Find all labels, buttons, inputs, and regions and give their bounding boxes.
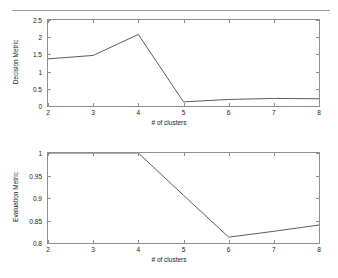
x-axis-tick-label: 3 — [91, 246, 95, 253]
y-axis-title-evaluation-metric: Evaluation Metric — [12, 172, 19, 222]
x-axis-tick — [138, 240, 139, 243]
x-axis-tick-label: 5 — [182, 109, 186, 116]
x-axis-tick-label: 4 — [137, 109, 141, 116]
y-axis-tick — [48, 153, 51, 154]
x-axis-tick — [184, 20, 185, 23]
y-axis-tick — [316, 54, 319, 55]
y-axis-tick — [316, 198, 319, 199]
x-axis-tick-label: 2 — [46, 109, 50, 116]
x-axis-tick — [93, 20, 94, 23]
y-axis-tick — [316, 72, 319, 73]
x-axis-tick — [138, 20, 139, 23]
y-axis-tick — [48, 72, 51, 73]
x-axis-tick — [274, 240, 275, 243]
x-axis-tick — [184, 153, 185, 156]
y-axis-tick — [316, 37, 319, 38]
x-axis-tick — [229, 20, 230, 23]
x-axis-tick-label: 2 — [46, 246, 50, 253]
y-axis-tick — [48, 20, 51, 21]
x-axis-tick — [184, 240, 185, 243]
x-axis-tick — [93, 153, 94, 156]
y-axis-tick — [316, 221, 319, 222]
y-axis-tick — [48, 243, 51, 244]
y-axis-tick-label: 1.5 — [0, 51, 42, 58]
x-axis-tick — [274, 153, 275, 156]
chart-decision-metric: 234567800.511.522.5 # of clusters Decisi… — [0, 14, 338, 142]
x-axis-title-decision-metric: # of clusters — [0, 119, 338, 126]
y-axis-tick — [48, 221, 51, 222]
x-axis-tick-label: 8 — [317, 109, 321, 116]
x-axis-title-evaluation-metric: # of clusters — [0, 256, 338, 263]
y-axis-tick — [48, 89, 51, 90]
x-axis-tick-label: 7 — [272, 246, 276, 253]
y-axis-tick — [48, 54, 51, 55]
y-axis-tick-label: 1 — [0, 68, 42, 75]
x-axis-tick — [229, 103, 230, 106]
y-axis-tick-label: 0.9 — [0, 195, 42, 202]
x-axis-tick — [274, 20, 275, 23]
y-axis-title-decision-metric: Decision Metric — [12, 40, 19, 84]
y-axis-tick-label: 1 — [0, 150, 42, 157]
y-axis-tick — [48, 37, 51, 38]
x-axis-tick — [93, 103, 94, 106]
y-axis-tick — [316, 176, 319, 177]
x-axis-tick — [93, 240, 94, 243]
x-axis-tick-label: 6 — [227, 246, 231, 253]
x-axis-tick-label: 4 — [137, 246, 141, 253]
y-axis-tick — [316, 153, 319, 154]
y-axis-tick — [48, 198, 51, 199]
y-axis-tick-label: 2.5 — [0, 17, 42, 24]
y-axis-tick-label: 0.5 — [0, 85, 42, 92]
series-line-evaluation-metric — [48, 153, 319, 243]
y-axis-tick — [316, 106, 319, 107]
y-axis-tick-label: 0 — [0, 103, 42, 110]
y-axis-tick-label: 2 — [0, 34, 42, 41]
x-axis-tick — [184, 103, 185, 106]
x-axis-tick-label: 6 — [227, 109, 231, 116]
x-axis-tick-label: 3 — [91, 109, 95, 116]
chart-evaluation-metric: 23456780.80.850.90.951 # of clusters Eva… — [0, 147, 338, 278]
x-axis-tick — [274, 103, 275, 106]
plot-area-decision-metric — [47, 19, 320, 107]
x-axis-tick-label: 5 — [182, 246, 186, 253]
x-axis-tick — [138, 103, 139, 106]
y-axis-tick-label: 0.95 — [0, 172, 42, 179]
x-axis-tick — [229, 153, 230, 156]
y-axis-tick — [48, 176, 51, 177]
y-axis-tick-label: 0.8 — [0, 240, 42, 247]
x-axis-tick-label: 7 — [272, 109, 276, 116]
y-axis-tick-label: 0.85 — [0, 217, 42, 224]
figure-page: 234567800.511.522.5 # of clusters Decisi… — [0, 0, 338, 278]
x-axis-tick — [319, 20, 320, 23]
x-axis-tick — [319, 153, 320, 156]
x-axis-tick — [319, 240, 320, 243]
x-axis-tick — [319, 103, 320, 106]
plot-area-evaluation-metric — [47, 152, 320, 244]
y-axis-tick — [316, 20, 319, 21]
page-divider-rule — [12, 10, 330, 11]
y-axis-tick — [316, 243, 319, 244]
x-axis-tick-label: 8 — [317, 246, 321, 253]
series-line-decision-metric — [48, 20, 319, 106]
x-axis-tick — [138, 153, 139, 156]
x-axis-tick — [229, 240, 230, 243]
y-axis-tick — [48, 106, 51, 107]
y-axis-tick — [316, 89, 319, 90]
